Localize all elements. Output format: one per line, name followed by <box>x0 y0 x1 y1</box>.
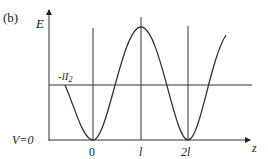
potential-diagram: (b) E z V=0 -lI2 0 l 2l <box>0 0 268 159</box>
baseline-label: V=0 <box>12 133 33 147</box>
tick-label-2l: 2l <box>181 145 191 159</box>
e-axis-label: E <box>35 16 44 31</box>
tick-label-0: 0 <box>89 145 95 159</box>
potential-curve <box>65 27 226 140</box>
z-axis-label: z <box>251 141 257 155</box>
panel-label: (b) <box>3 10 18 25</box>
energy-level-label: -lI2 <box>58 70 72 84</box>
tick-label-l: l <box>139 145 143 159</box>
